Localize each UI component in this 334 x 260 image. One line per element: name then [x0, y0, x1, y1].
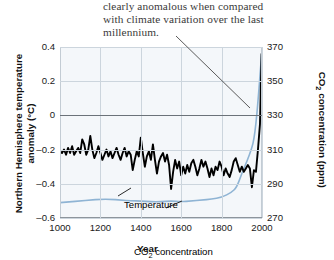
y-tick-left: 0.2	[15, 75, 55, 86]
gridline-vertical	[181, 47, 182, 218]
plot-area: Temperature CO2 concentration	[60, 47, 262, 218]
y-tick-left: 0.4	[15, 41, 55, 52]
gridline-horizontal	[60, 218, 262, 219]
y-axis-title-right-text: CO2 concentration (ppm)	[317, 72, 328, 188]
y-tick-right: 330	[267, 109, 307, 120]
gridline-vertical	[141, 47, 142, 218]
temperature-series-label: Temperature	[124, 199, 178, 210]
figure-caption: clearly anomalous when compared with cli…	[103, 0, 331, 39]
x-axis-title: Year	[137, 243, 158, 254]
climate-figure: clearly anomalous when compared with cli…	[0, 0, 334, 260]
caption-line-1: clearly anomalous when compared	[103, 0, 331, 13]
y-tick-left: 0	[15, 109, 55, 120]
gridline-vertical	[100, 47, 101, 218]
zero-line	[60, 115, 262, 116]
gridline-horizontal	[60, 81, 262, 82]
series-canvas	[60, 47, 262, 218]
gridline-horizontal	[60, 47, 262, 48]
y-tick-left: –0.2	[15, 144, 55, 155]
gridline-horizontal	[60, 184, 262, 185]
gridline-vertical	[222, 47, 223, 218]
y-tick-left: –0.4	[15, 178, 55, 189]
x-tick: 2000	[238, 222, 286, 233]
y-tick-right: 310	[267, 144, 307, 155]
y-tick-right: 290	[267, 178, 307, 189]
y-tick-right: 350	[267, 75, 307, 86]
temperature-line	[60, 54, 262, 189]
gridline-vertical	[262, 47, 263, 218]
y-tick-right: 370	[267, 41, 307, 52]
gridline-horizontal	[60, 150, 262, 151]
y-axis-title-right: CO2 concentration (ppm)	[312, 42, 328, 218]
plot-left-edge	[60, 47, 61, 218]
y-axis-title-left: Northern Hemisphere temperatureanomaly (…	[13, 46, 36, 222]
caption-line-3: millennium.	[103, 26, 331, 39]
caption-line-2: with climate variation over the last	[103, 13, 331, 26]
co2-line	[60, 54, 262, 203]
